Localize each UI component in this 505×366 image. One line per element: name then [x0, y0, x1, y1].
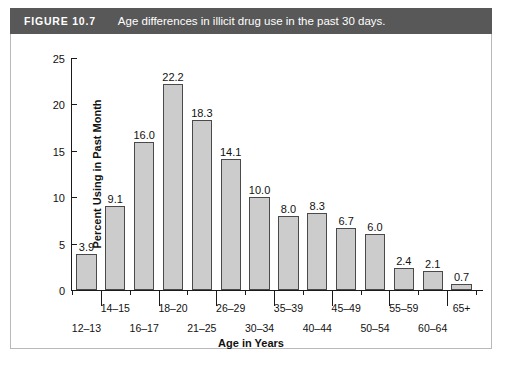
x-axis-tick-mark: [418, 290, 419, 295]
x-axis-tick-label: 21–25: [187, 322, 216, 334]
bar: 9.1: [105, 206, 125, 290]
x-axis-tick-mark: [274, 290, 275, 306]
y-axis-tick: 25: [53, 49, 72, 67]
bar: 10.0: [249, 197, 269, 290]
y-axis-tick-label: 25: [53, 53, 65, 65]
bar-value-label: 6.7: [338, 215, 353, 227]
y-axis-tick-mark: [72, 197, 77, 198]
y-axis-tick-mark: [72, 151, 77, 152]
y-axis-tick: 15: [53, 142, 72, 160]
y-axis-tick-label: 5: [59, 239, 65, 251]
y-axis-tick: 5: [59, 235, 72, 253]
x-axis-tick-label: 12–13: [72, 322, 101, 334]
y-axis-tick-mark: [72, 58, 77, 59]
x-axis-tick-mark: [476, 290, 477, 295]
x-axis-tick-label: 18–20: [158, 302, 187, 314]
bar-value-label: 14.1: [220, 146, 241, 158]
bar-value-label: 3.9: [79, 241, 94, 253]
x-axis-line: [71, 290, 483, 291]
y-axis-tick-label: 10: [53, 192, 65, 204]
bar-value-label: 18.3: [191, 107, 212, 119]
x-axis-tick-label: 16–17: [130, 322, 159, 334]
x-axis-tick-label: 55–59: [389, 302, 418, 314]
bar-value-label: 8.3: [310, 200, 325, 212]
y-axis-tick: 10: [53, 188, 72, 206]
bar-value-label: 6.0: [367, 221, 382, 233]
bar-value-label: 0.7: [454, 271, 469, 283]
x-axis-tick-label: 40–44: [303, 322, 332, 334]
x-axis-tick-label: 60–64: [418, 322, 447, 334]
bar-value-label: 22.2: [162, 71, 183, 83]
x-axis-tick-mark: [72, 290, 73, 295]
x-axis-tick-label: 65+: [453, 302, 471, 314]
x-axis-tick-mark: [216, 290, 217, 306]
plot-area: 05101520253.99.116.022.218.314.110.08.08…: [72, 58, 476, 290]
y-axis-tick-mark: [72, 244, 77, 245]
figure-page: FIGURE 10.7 Age differences in illicit d…: [0, 0, 505, 366]
y-axis-tick-label: 0: [59, 285, 65, 297]
bar-value-label: 16.0: [133, 129, 154, 141]
x-axis-tick-mark: [130, 290, 131, 295]
bar: 6.7: [336, 228, 356, 290]
bar-value-label: 2.1: [425, 258, 440, 270]
y-axis-tick-label: 20: [53, 99, 65, 111]
x-axis-title: Age in Years: [10, 337, 492, 349]
x-axis-tick-label: 35–39: [274, 302, 303, 314]
x-axis-tick-mark: [332, 290, 333, 306]
x-axis-tick-mark: [389, 290, 390, 306]
bar: 18.3: [192, 120, 212, 290]
x-axis-tick-mark: [361, 290, 362, 295]
x-axis-tick-label: 50–54: [360, 322, 389, 334]
bar: 0.7: [451, 284, 471, 290]
y-axis-tick-mark: [72, 104, 77, 105]
y-axis-tick: 0: [59, 281, 72, 299]
bar: 8.3: [307, 213, 327, 290]
x-axis-tick-mark: [245, 290, 246, 295]
bar: 6.0: [365, 234, 385, 290]
bar: 2.4: [394, 268, 414, 290]
x-axis-tick-label: 26–29: [216, 302, 245, 314]
bar-value-label: 8.0: [281, 203, 296, 215]
x-axis-tick-mark: [101, 290, 102, 306]
bar: 22.2: [163, 84, 183, 290]
x-axis-tick-mark: [159, 290, 160, 306]
figure-caption-banner: FIGURE 10.7 Age differences in illicit d…: [10, 8, 492, 34]
bar: 16.0: [134, 142, 154, 290]
x-axis-tick-label: 45–49: [332, 302, 361, 314]
bar: 14.1: [221, 159, 241, 290]
x-axis-tick-mark: [303, 290, 304, 295]
bar-chart: Percent Using in Past Month 05101520253.…: [10, 34, 492, 349]
bar-value-label: 10.0: [249, 184, 270, 196]
figure-caption-text: Age differences in illicit drug use in t…: [118, 15, 386, 27]
bar: 3.9: [76, 254, 96, 290]
bar: 8.0: [278, 216, 298, 290]
x-axis-tick-mark: [447, 290, 448, 306]
bar-value-label: 9.1: [108, 193, 123, 205]
y-axis-tick: 20: [53, 95, 72, 113]
x-axis-tick-mark: [187, 290, 188, 295]
x-axis-tick-label: 14–15: [101, 302, 130, 314]
bar: 2.1: [423, 271, 443, 290]
x-axis-tick-label: 30–34: [245, 322, 274, 334]
bar-value-label: 2.4: [396, 255, 411, 267]
figure-number-label: FIGURE 10.7: [24, 15, 96, 27]
y-axis-tick-label: 15: [53, 146, 65, 158]
